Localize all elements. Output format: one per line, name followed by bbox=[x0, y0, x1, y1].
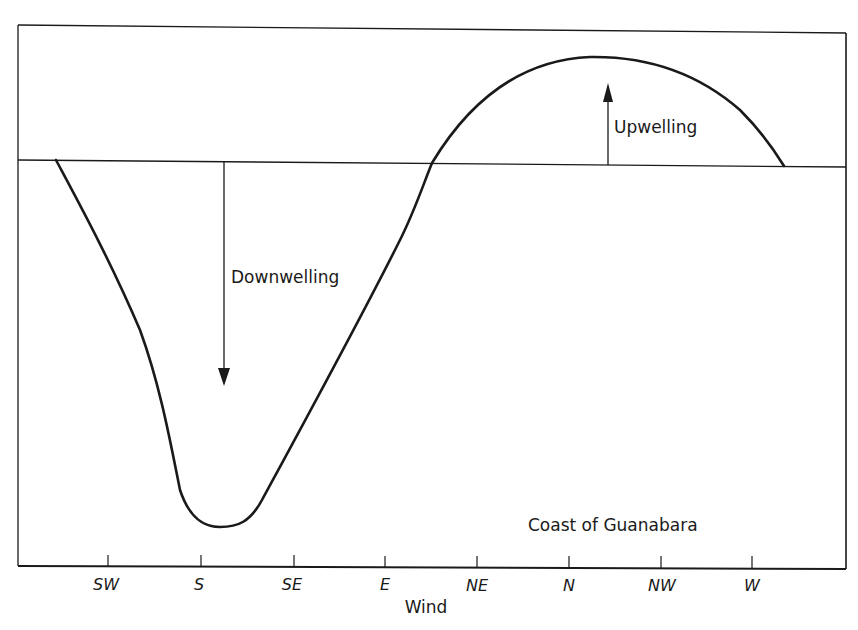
tick-label-e: E bbox=[380, 575, 391, 594]
arrow-down-icon bbox=[218, 368, 230, 386]
downwelling-arrow bbox=[218, 162, 230, 386]
tick-label-ne: NE bbox=[466, 576, 489, 595]
x-axis-label: Wind bbox=[405, 597, 448, 617]
tick-label-nw: NW bbox=[648, 576, 677, 595]
tick-label-se: SE bbox=[282, 575, 303, 594]
tick-label-sw: SW bbox=[93, 575, 120, 594]
downwelling-label: Downwelling bbox=[231, 267, 339, 287]
upwelling-diagram: Downwelling Upwelling Coast of Guanabara… bbox=[0, 0, 858, 630]
x-axis-line bbox=[18, 566, 846, 569]
tick-label-s: S bbox=[194, 575, 204, 594]
tick-label-n: N bbox=[563, 576, 575, 595]
tick-label-w: W bbox=[744, 576, 761, 595]
upwelling-label: Upwelling bbox=[614, 117, 697, 137]
arrow-up-icon bbox=[603, 83, 613, 102]
frame-top bbox=[18, 25, 846, 33]
x-axis-tick-labels: SW S SE E NE N NW W bbox=[93, 575, 761, 595]
location-label: Coast of Guanabara bbox=[528, 515, 698, 535]
plot-frame bbox=[18, 25, 846, 569]
upwelling-arrow bbox=[603, 83, 613, 165]
